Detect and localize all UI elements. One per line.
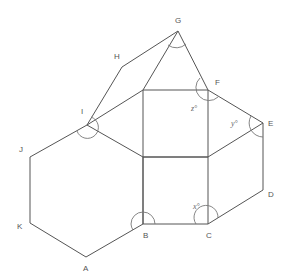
- right-hexagon: [208, 90, 263, 224]
- angle-label-x: x°: [192, 202, 201, 211]
- triangle-g: [143, 31, 208, 90]
- left-hexagon: [30, 125, 143, 257]
- vertex-label-e: E: [268, 119, 273, 128]
- vertex-label-f: F: [215, 78, 220, 87]
- edge-inner-e: [208, 123, 263, 157]
- diagram-canvas: G H F I E J D K B C A z° y° x°: [0, 0, 289, 280]
- vertex-label-j: J: [19, 145, 23, 154]
- rhombus-ihg: [87, 31, 178, 125]
- vertex-label-g: G: [175, 16, 181, 25]
- vertex-label-k: K: [17, 222, 23, 231]
- angle-label-y: y°: [230, 119, 239, 128]
- vertex-label-i: I: [81, 107, 83, 116]
- angle-arc-b-lower: [131, 224, 133, 230]
- angle-arc-g: [168, 44, 186, 48]
- vertex-label-a: A: [83, 264, 89, 273]
- vertex-label-b: B: [143, 231, 148, 240]
- lower-square: [143, 157, 208, 224]
- vertex-label-h: H: [114, 52, 120, 61]
- vertex-label-c: C: [206, 231, 212, 240]
- geometry-diagram: G H F I E J D K B C A z° y° x°: [0, 0, 289, 280]
- vertex-label-d: D: [268, 190, 274, 199]
- square: [143, 90, 208, 157]
- angle-label-z: z°: [190, 104, 198, 113]
